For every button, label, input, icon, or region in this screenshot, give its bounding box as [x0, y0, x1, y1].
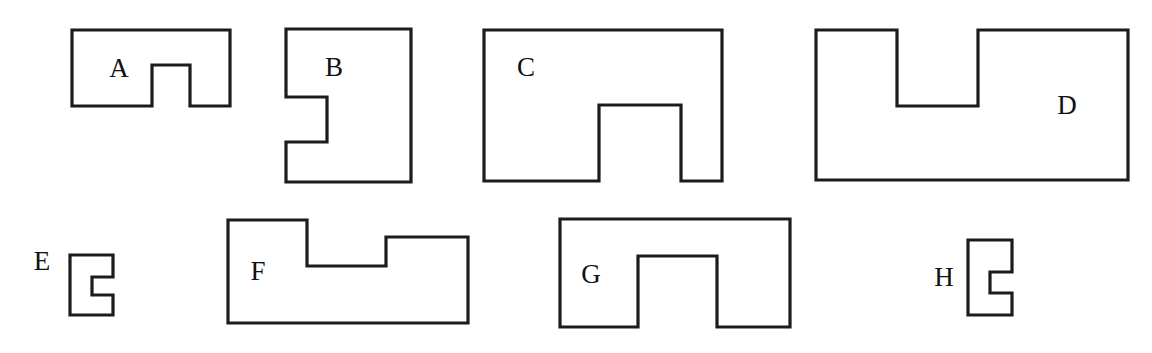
shape-a — [72, 30, 230, 106]
shape-label-a: A — [109, 53, 129, 83]
shape-d — [816, 30, 1128, 180]
shapes-diagram: ABCDEFGH — [0, 0, 1152, 353]
shape-label-e: E — [34, 246, 51, 276]
shape-b — [286, 29, 411, 182]
shape-label-b: B — [325, 52, 343, 82]
shape-figure-canvas: ABCDEFGH — [0, 0, 1152, 353]
shape-label-d: D — [1057, 90, 1077, 120]
shape-h — [968, 240, 1012, 315]
shape-label-h: H — [934, 262, 954, 292]
shape-e — [70, 255, 113, 315]
shape-label-g: G — [581, 259, 601, 289]
shape-label-f: F — [250, 256, 265, 286]
shape-label-c: C — [517, 52, 535, 82]
